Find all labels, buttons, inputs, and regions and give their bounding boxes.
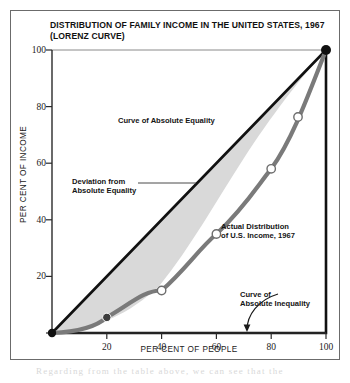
marker-20-5	[103, 313, 111, 321]
marker-40-15	[157, 286, 165, 294]
marker-90-76	[294, 113, 302, 121]
marker-100-100	[321, 45, 331, 55]
y-tick-80: 80	[22, 102, 46, 112]
annotation-curve-of-absolute-equality: Curve of Absolute Equality	[118, 116, 215, 125]
inequality-arrowhead-icon	[244, 325, 251, 333]
annotation-actual-distribution: Actual Distribution of U.S. Income, 1967	[221, 222, 295, 241]
page-bleed-text: Regarding from the table above, we can s…	[36, 366, 336, 376]
annotation-curve-of-absolute-inequality: Curve of Absolute Inequality	[240, 290, 310, 309]
marker-60-35	[212, 230, 220, 238]
marker-80-58	[267, 165, 275, 173]
annotation-deviation-from-absolute-equality: Deviation from Absolute Equality	[72, 177, 136, 196]
lorenz-curve-plot	[0, 0, 350, 383]
y-axis-ticks	[46, 50, 52, 333]
y-axis-title: PER CENT OF INCOME	[19, 115, 28, 235]
x-axis-title: PER CENT OF PEOPLE	[52, 345, 326, 354]
y-tick-20: 20	[22, 271, 46, 281]
y-tick-100: 100	[22, 45, 46, 55]
marker-0-0	[48, 329, 56, 337]
